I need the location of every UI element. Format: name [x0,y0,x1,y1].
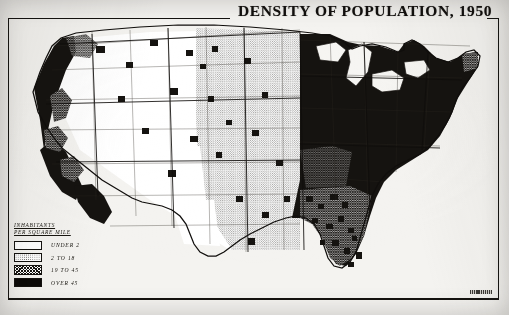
legend-swatch-19-to-45 [14,265,42,274]
legend-row-2-to-18: 2 TO 18 [14,252,118,264]
legend-label-19-to-45: 19 TO 45 [51,267,79,273]
legend-swatch-over-45 [14,278,42,287]
publisher-credit-mark [470,290,492,294]
map-title: DENSITY OF POPULATION, 1950 [234,2,496,20]
legend-label-2-to-18: 2 TO 18 [51,255,75,261]
legend-row-under-2: UNDER 2 [14,239,118,251]
legend-label-over-45: OVER 45 [51,280,78,286]
legend-swatch-under-2 [14,241,42,250]
legend-row-19-to-45: 19 TO 45 [14,264,118,276]
legend-heading: INHABITANTS PER SQUARE MILE [14,222,118,235]
legend-heading-line1: INHABITANTS [14,222,118,229]
legend: INHABITANTS PER SQUARE MILE UNDER 2 2 TO… [14,222,118,289]
frame-bottom-rule [8,298,499,300]
frame-right-rule [498,18,499,299]
legend-heading-line2: PER SQUARE MILE [14,229,118,236]
frame-left-rule [8,18,9,299]
legend-swatch-2-to-18 [14,253,42,262]
legend-row-over-45: OVER 45 [14,276,118,288]
frame-top-left-rule [8,18,230,19]
map-page: DENSITY OF POPULATION, 1950 INHABITANTS … [0,0,509,315]
legend-label-under-2: UNDER 2 [51,242,80,248]
